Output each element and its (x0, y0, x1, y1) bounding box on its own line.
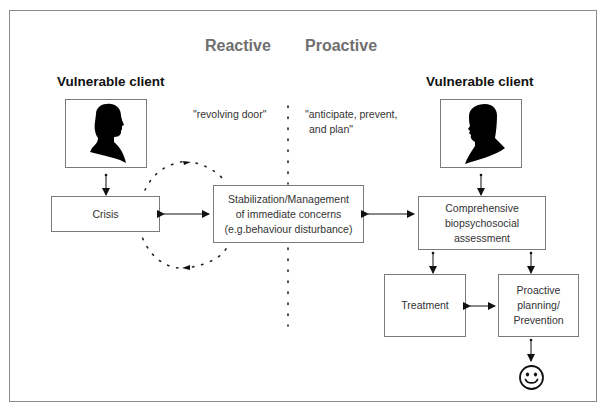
revolving-arc-bottom (192, 249, 226, 267)
connectors-overlay (0, 0, 607, 420)
revolving-arc-top-arrowhead (183, 161, 191, 165)
revolving-arc-bottom-arrowhead (182, 265, 190, 270)
smiley-face-icon (518, 364, 545, 391)
revolving-arc-top (145, 161, 188, 190)
